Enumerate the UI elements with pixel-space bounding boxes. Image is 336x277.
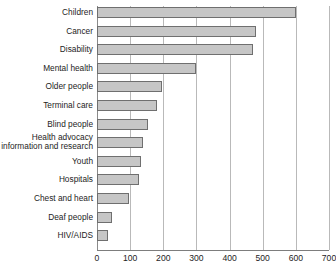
bar-row xyxy=(97,7,329,18)
category-label: Mental health xyxy=(0,64,93,73)
bar xyxy=(97,100,157,111)
category-label: Hospitals xyxy=(0,175,93,184)
bar xyxy=(97,137,143,148)
category-label: Chest and heart xyxy=(0,194,93,203)
category-label: Children xyxy=(0,8,93,17)
bar-row xyxy=(97,137,329,148)
x-tick-label-600: 600 xyxy=(289,253,303,264)
bar xyxy=(97,174,139,185)
bar xyxy=(97,193,129,204)
category-label: Disability xyxy=(0,45,93,54)
bar xyxy=(97,212,112,223)
bar xyxy=(97,44,253,55)
x-tick-label-0: 0 xyxy=(95,253,100,264)
bar xyxy=(97,230,108,241)
x-axis-tick-labels: 0100200300400500600700 xyxy=(0,253,331,269)
category-axis-labels: ChildrenCancerDisabilityMental healthOld… xyxy=(0,6,93,250)
category-label: Cancer xyxy=(0,27,93,36)
bar-row xyxy=(97,63,329,74)
category-label: Youth xyxy=(0,157,93,166)
bar-row xyxy=(97,212,329,223)
bar xyxy=(97,81,162,92)
bar-row xyxy=(97,26,329,37)
bar-row xyxy=(97,156,329,167)
category-label: Blind people xyxy=(0,120,93,129)
bar xyxy=(97,119,148,130)
x-tick-label-700: 700 xyxy=(322,253,336,264)
x-tick-label-500: 500 xyxy=(256,253,270,264)
bar xyxy=(97,26,256,37)
category-label: Older people xyxy=(0,82,93,91)
bar-row xyxy=(97,230,329,241)
bar-row xyxy=(97,174,329,185)
x-tick-label-100: 100 xyxy=(123,253,137,264)
x-tick-label-300: 300 xyxy=(189,253,203,264)
x-tick-label-200: 200 xyxy=(156,253,170,264)
plot-area xyxy=(97,6,329,250)
bar-series xyxy=(97,6,329,250)
category-label: HIV/AIDS xyxy=(0,231,93,240)
x-axis-line xyxy=(97,250,329,251)
bar xyxy=(97,7,296,18)
category-label: Health advocacy information and research xyxy=(0,133,93,152)
bar-row xyxy=(97,81,329,92)
bar xyxy=(97,156,141,167)
bar-row xyxy=(97,193,329,204)
category-label: Deaf people xyxy=(0,213,93,222)
bar-row xyxy=(97,119,329,130)
gridline-700 xyxy=(329,6,330,250)
category-label: Terminal care xyxy=(0,101,93,110)
x-tick-label-400: 400 xyxy=(222,253,236,264)
bar xyxy=(97,63,196,74)
bar-row xyxy=(97,44,329,55)
bar-row xyxy=(97,100,329,111)
